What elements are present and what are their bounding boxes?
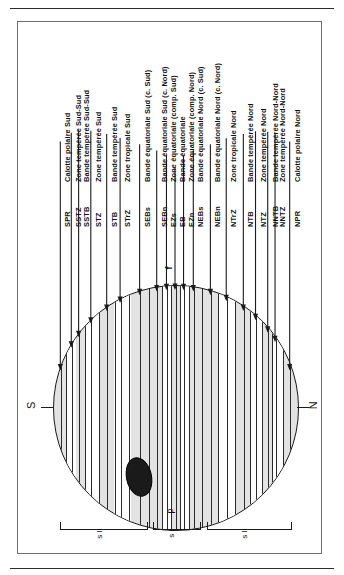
system-bracket [60,522,147,530]
north-pole-label: N [307,401,319,409]
planet-band-divider [276,286,277,530]
figure-page: SPRSSTZSSTBSTZSTBSTrZSEBsSEBnEZsEBEZnNEB… [0,0,344,575]
planet-band-divider [171,286,172,530]
planet-band-divider [283,286,284,530]
south-pole-label: S [25,401,37,409]
band-code-label: EB [178,216,187,227]
band-code-label: NTB [246,211,255,227]
planet-band-divider [121,286,122,530]
north-pole-tick [297,407,309,408]
planet-band-divider [290,286,291,530]
band-description-label: Bande équatoriale Nord (c. Nord) [213,63,222,182]
figure-frame: SPRSSTZSSTBSTZSTBSTrZSEBsSEBnEZsEBEZnNEB… [17,21,322,554]
planet-band-divider [194,286,195,530]
band-code-label: SPR [63,211,72,227]
band-description-label: Calotte polaire Nord [293,109,302,182]
planet-band-divider [167,286,168,530]
band-code-label: EZn [187,212,196,227]
band-description-label: Zone tempérée Sud [94,112,103,182]
planet-band-divider [99,286,100,530]
band-description-label: Bande tempérée Sud [110,107,119,182]
planet-band-divider [129,286,130,530]
planet-zone-band [272,286,283,530]
band-description-label: Zone tempérée Nord [259,108,268,182]
planet-band-divider [218,286,219,530]
planet-band-divider [180,286,181,530]
planet-band-divider [115,286,116,530]
page-top-rule [10,8,334,9]
planet-band-divider [61,286,62,530]
planet-band-divider [189,286,190,530]
system-bracket-label: s II [240,528,249,539]
band-description-label: Bande équatoriale Nord (c. Sud) [196,66,205,182]
equator-f-marker: f [164,267,174,270]
band-code-label: SEBn [160,206,169,227]
page-bottom-rule [10,568,334,569]
band-code-label: NNTZ [278,206,287,227]
band-code-label: NTrZ [229,209,238,227]
south-pole-tick [41,407,53,408]
band-code-label: NTZ [259,212,268,227]
planet-band-divider [211,286,212,530]
planet-band-divider [91,286,92,530]
planet-band-divider [235,286,236,530]
central-meridian-p-marker: p [165,508,175,513]
band-description-label: Bande équatoriale Sud (c. Nord) [160,66,169,182]
band-code-label: NEBn [213,206,222,227]
planet-band-divider [227,286,228,530]
band-description-label: Bande tempérée Sud-Sud [82,90,91,182]
planet-band-divider [244,286,245,530]
planet-band-divider [162,286,163,530]
system-bracket-label: s I [167,529,176,537]
band-code-label: STB [110,212,119,227]
planet-band-divider [202,286,203,530]
planet-band-divider [184,286,185,530]
band-code-label: STZ [94,212,103,227]
planet-band-divider [268,286,269,530]
band-description-label: Zone tropicale Nord [229,110,238,182]
planet-band-divider [107,286,108,530]
band-description-label: Bande équatoriale [178,116,187,182]
band-code-label: STrZ [123,210,132,227]
system-bracket [153,522,201,530]
band-code-label: NPR [293,211,302,227]
planet-band-divider [176,286,178,530]
planet-zone-band [86,286,100,530]
system-bracket [207,522,292,530]
planet-band-divider [72,286,73,530]
planet-band-divider [250,286,251,530]
planet-band-divider [262,286,263,530]
band-code-label: SEBs [143,207,152,227]
band-description-label: Bande équatoriale Sud (c. Sud) [143,70,152,182]
band-description-label: Zone tropicale Sud [123,114,132,182]
planet-band-divider [149,286,150,530]
band-description-label: Calotte polaire Sud [63,113,72,182]
planet-band-divider [85,286,86,530]
planet-band-divider [66,286,67,530]
band-code-label: SSTB [82,206,91,227]
band-description-label: Zone équatoriale (comp. Nord) [187,72,196,182]
system-bracket-label: s II [95,528,104,539]
planet-band-divider [79,286,80,530]
band-description-label: Zone tempérée Nord-Nord [278,88,287,182]
band-code-label: NEBs [196,206,205,227]
planet-band-divider [256,286,257,530]
planet-band-divider [272,286,273,530]
planet-disc [53,285,299,531]
planet-band-divider [157,286,158,530]
band-description-label: Bande tempérée Nord [246,103,255,182]
